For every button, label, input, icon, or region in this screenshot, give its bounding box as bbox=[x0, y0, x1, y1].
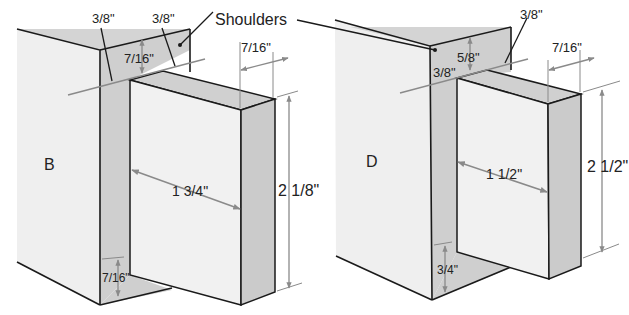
diagram-b-label: B bbox=[44, 156, 55, 173]
dim-b-tenon-length: 1 3/4" bbox=[172, 183, 208, 199]
diagram-d-label: D bbox=[366, 153, 378, 170]
dim-b-bottom-shoulder: 7/16" bbox=[102, 271, 130, 285]
dim-d-tenon-thickness: 7/16" bbox=[552, 40, 582, 55]
dim-b-shoulder-right: 3/8" bbox=[152, 11, 175, 26]
tenon-d-side bbox=[548, 94, 581, 279]
block-d-face bbox=[335, 20, 432, 300]
dim-d-tenon-height: 2 1/2" bbox=[587, 158, 628, 175]
dim-d-bottom-shoulder: 3/4" bbox=[437, 263, 458, 277]
block-b-face bbox=[17, 29, 100, 305]
dim-b-top-shoulder: 7/16" bbox=[124, 51, 154, 66]
joint-diagram: B 3/8" 3/8" 7/16" 7/16" 1 3/4" 2 1/8" 7/… bbox=[0, 0, 629, 315]
dim-b-shoulder-left: 3/8" bbox=[92, 11, 115, 26]
dim-b-tenon-height: 2 1/8" bbox=[278, 182, 319, 199]
diagram-d: D 3/8" 5/8" 3/8" 7/16" 1 1/2" 2 1/2" 3/4… bbox=[335, 7, 628, 300]
dim-d-tenon-length: 1 1/2" bbox=[486, 166, 522, 182]
dim-b-tenon-thickness: 7/16" bbox=[241, 40, 271, 55]
dim-d-shoulder-left: 3/8" bbox=[433, 65, 456, 80]
shoulders-label: Shoulders bbox=[215, 11, 287, 28]
diagram-b: B 3/8" 3/8" 7/16" 7/16" 1 3/4" 2 1/8" 7/… bbox=[17, 11, 319, 305]
dim-d-top-shoulder: 5/8" bbox=[457, 50, 480, 65]
tenon-b-side bbox=[241, 99, 275, 305]
dim-d-shoulder-right: 3/8" bbox=[520, 7, 543, 22]
